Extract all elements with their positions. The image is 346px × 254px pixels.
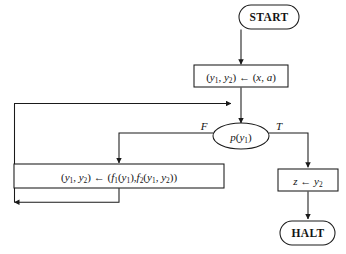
flowchart-graphics [0, 0, 346, 254]
node-shape-loop-body[interactable] [14, 164, 224, 188]
edge-true-branch [269, 133, 308, 167]
flowchart-canvas: START (y1, y2) ← (x, a) p(y1) (y1, y2) ←… [0, 0, 346, 254]
edge-false-branch [119, 133, 213, 163]
edge-loopback-lower [15, 188, 120, 202]
node-shape-init-assign[interactable] [194, 65, 288, 87]
node-shape-decision[interactable] [213, 123, 269, 149]
node-shape-start[interactable] [239, 5, 299, 29]
node-shape-halt[interactable] [280, 221, 335, 245]
node-shape-result-assign[interactable] [278, 169, 338, 191]
